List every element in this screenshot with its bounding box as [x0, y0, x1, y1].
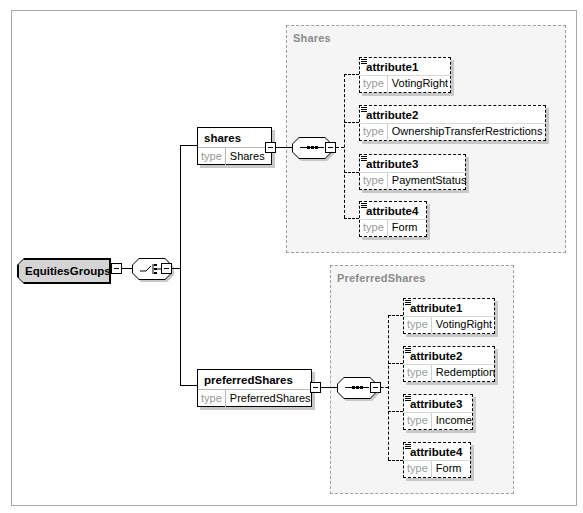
- attribute-1[interactable]: attribute1 typeVotingRight: [403, 298, 495, 334]
- attribute-icon: [361, 156, 367, 161]
- type-label: type: [404, 317, 432, 333]
- attribute-icon: [361, 203, 367, 208]
- connector: [180, 145, 197, 146]
- attribute-name: attribute3: [410, 398, 462, 410]
- type-label: type: [360, 124, 388, 140]
- type-value: Income: [432, 413, 476, 429]
- connector: [122, 268, 132, 269]
- type-value: Shares: [226, 148, 269, 165]
- attribute-4[interactable]: attribute4 typeForm: [359, 201, 427, 237]
- type-value: VotingRight: [432, 317, 496, 333]
- type-label: type: [360, 173, 388, 189]
- attribute-icon: [361, 107, 367, 112]
- collapse-toggle[interactable]: [325, 142, 336, 153]
- type-label: type: [198, 148, 226, 165]
- element-preferredshares[interactable]: preferredShares type PreferredShares: [197, 369, 312, 407]
- attribute-icon: [361, 59, 367, 64]
- connector: [180, 385, 197, 386]
- connector: [172, 268, 180, 269]
- type-label: type: [404, 461, 432, 477]
- attribute-icon: [405, 300, 411, 305]
- type-label: type: [360, 76, 388, 92]
- element-name: shares: [198, 128, 271, 148]
- connector: [388, 315, 389, 460]
- attribute-2[interactable]: attribute2 typeRedemption: [403, 346, 495, 382]
- attribute-2[interactable]: attribute2 typeOwnershipTransferRestrict…: [359, 105, 546, 141]
- attribute-1[interactable]: attribute1 typeVotingRight: [359, 57, 451, 93]
- group-title: Shares: [293, 32, 331, 44]
- type-value: Form: [388, 220, 422, 236]
- type-value: OwnershipTransferRestrictions: [388, 124, 547, 140]
- connector: [276, 147, 292, 148]
- attribute-name: attribute2: [366, 109, 418, 121]
- attribute-icon: [405, 348, 411, 353]
- attribute-name: attribute1: [410, 302, 462, 314]
- collapse-toggle[interactable]: [161, 263, 172, 274]
- root-element[interactable]: EquitiesGroups: [18, 259, 110, 283]
- connector: [336, 147, 344, 148]
- collapse-toggle[interactable]: [370, 382, 381, 393]
- connector: [344, 218, 359, 219]
- connector: [344, 74, 359, 75]
- attribute-name: attribute1: [366, 61, 418, 73]
- type-value: VotingRight: [388, 76, 452, 92]
- connector: [388, 460, 403, 461]
- collapse-toggle[interactable]: [310, 382, 321, 393]
- connector: [180, 145, 181, 385]
- attribute-name: attribute3: [366, 158, 418, 170]
- connector: [321, 387, 337, 388]
- type-label: type: [360, 220, 388, 236]
- attribute-icon: [405, 444, 411, 449]
- attribute-3[interactable]: attribute3 typePaymentStatus: [359, 154, 466, 190]
- type-value: Redemption: [432, 365, 499, 381]
- connector: [388, 363, 403, 364]
- type-label: type: [198, 390, 226, 407]
- connector: [381, 387, 388, 388]
- attribute-name: attribute2: [410, 350, 462, 362]
- type-label: type: [404, 413, 432, 429]
- attribute-4[interactable]: attribute4 typeForm: [403, 442, 471, 478]
- group-title: PreferredShares: [337, 272, 426, 284]
- connector: [388, 315, 403, 316]
- connector: [344, 74, 345, 218]
- collapse-toggle[interactable]: [111, 263, 122, 274]
- connector: [344, 172, 359, 173]
- sequence-icon: [300, 147, 324, 148]
- element-shares[interactable]: shares type Shares: [197, 127, 272, 165]
- attribute-icon: [405, 396, 411, 401]
- element-name: preferredShares: [198, 370, 311, 390]
- connector: [388, 411, 403, 412]
- connector: [344, 122, 359, 123]
- type-value: Form: [432, 461, 466, 477]
- type-value: PaymentStatus: [388, 173, 471, 189]
- attribute-name: attribute4: [410, 446, 462, 458]
- attribute-name: attribute4: [366, 205, 418, 217]
- collapse-toggle[interactable]: [265, 142, 276, 153]
- type-label: type: [404, 365, 432, 381]
- type-value: PreferredShares: [226, 390, 315, 407]
- sequence-icon: [345, 387, 369, 388]
- attribute-3[interactable]: attribute3 typeIncome: [403, 394, 473, 430]
